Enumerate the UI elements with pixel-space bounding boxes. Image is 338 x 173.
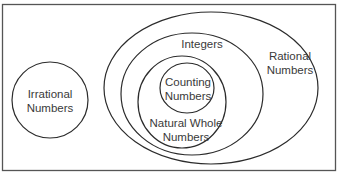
irrational-numbers-label: Irrational Numbers [27, 87, 74, 115]
rational-label-line2: Numbers [267, 63, 314, 77]
irrational-label-line2: Numbers [27, 101, 74, 115]
integers-label: Integers [181, 37, 223, 51]
irrational-label-line1: Irrational [27, 87, 74, 101]
counting-label-line2: Numbers [165, 89, 212, 103]
rational-numbers-label: Rational Numbers [267, 49, 314, 77]
rational-label-line1: Rational [267, 49, 314, 63]
natural-whole-label-line2: Numbers [150, 130, 223, 144]
counting-label-line1: Counting [165, 75, 212, 89]
natural-whole-numbers-label: Natural Whole Numbers [150, 116, 223, 144]
natural-whole-label-line1: Natural Whole [150, 116, 223, 130]
integers-label-line1: Integers [181, 37, 223, 51]
venn-diagram: Irrational Numbers Rational Numbers Inte… [0, 0, 338, 173]
counting-numbers-label: Counting Numbers [165, 75, 212, 103]
